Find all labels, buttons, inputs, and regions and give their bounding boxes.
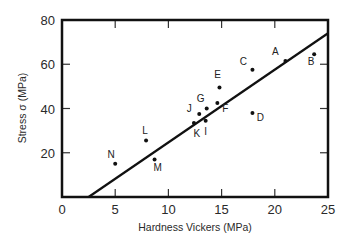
data-point-g: G bbox=[197, 93, 209, 111]
data-point-b: B bbox=[308, 52, 316, 67]
point-marker bbox=[204, 119, 208, 123]
x-tick-label: 10 bbox=[161, 202, 175, 217]
point-marker bbox=[250, 68, 254, 72]
data-point-e: E bbox=[214, 69, 221, 89]
y-tick-label: 20 bbox=[41, 146, 55, 161]
y-tick-label: 60 bbox=[41, 57, 55, 72]
data-point-j: J bbox=[187, 103, 202, 116]
point-label: K bbox=[194, 128, 201, 139]
point-marker bbox=[205, 107, 209, 111]
y-axis-title: Stress σ (MPa) bbox=[16, 73, 28, 144]
point-label: A bbox=[272, 46, 279, 57]
x-tick-label: 0 bbox=[58, 202, 65, 217]
data-points: ABCDEFGIJKLMN bbox=[108, 46, 317, 173]
y-tick-label: 80 bbox=[41, 13, 55, 28]
point-marker bbox=[192, 121, 196, 125]
x-tick-label: 5 bbox=[112, 202, 119, 217]
data-point-i: I bbox=[204, 119, 208, 137]
data-point-f: F bbox=[215, 101, 228, 114]
axis-tick-labels: 051015202520406080 bbox=[41, 13, 336, 217]
point-marker bbox=[144, 139, 148, 143]
point-marker bbox=[283, 59, 287, 63]
point-label: E bbox=[214, 69, 221, 80]
x-tick-label: 25 bbox=[321, 202, 335, 217]
point-label: J bbox=[187, 103, 192, 114]
point-label: D bbox=[257, 112, 264, 123]
point-label: B bbox=[308, 56, 315, 67]
data-point-d: D bbox=[250, 111, 264, 123]
x-tick-label: 15 bbox=[214, 202, 228, 217]
regression-line bbox=[89, 33, 328, 197]
point-label: L bbox=[142, 125, 148, 136]
scatter-chart: 051015202520406080 ABCDEFGIJKLMN Hardnes… bbox=[0, 0, 351, 242]
point-marker bbox=[250, 111, 254, 115]
point-label: F bbox=[222, 103, 228, 114]
y-tick-label: 40 bbox=[41, 102, 55, 117]
point-marker bbox=[113, 162, 117, 166]
point-label: G bbox=[197, 93, 205, 104]
data-point-a: A bbox=[272, 46, 287, 63]
point-marker bbox=[197, 112, 201, 116]
point-label: M bbox=[153, 162, 161, 173]
point-marker bbox=[215, 101, 219, 105]
data-point-l: L bbox=[142, 125, 148, 143]
point-marker bbox=[153, 157, 157, 161]
point-marker bbox=[217, 85, 221, 89]
point-label: I bbox=[204, 126, 207, 137]
x-tick-label: 20 bbox=[268, 202, 282, 217]
axis-ticks bbox=[62, 20, 328, 197]
point-label: C bbox=[240, 56, 247, 67]
data-point-c: C bbox=[240, 56, 255, 72]
plot-frame bbox=[62, 20, 328, 197]
point-label: N bbox=[108, 149, 115, 160]
data-point-m: M bbox=[153, 157, 162, 173]
data-point-n: N bbox=[108, 149, 118, 166]
x-axis-title: Hardness Vickers (MPa) bbox=[138, 221, 252, 233]
